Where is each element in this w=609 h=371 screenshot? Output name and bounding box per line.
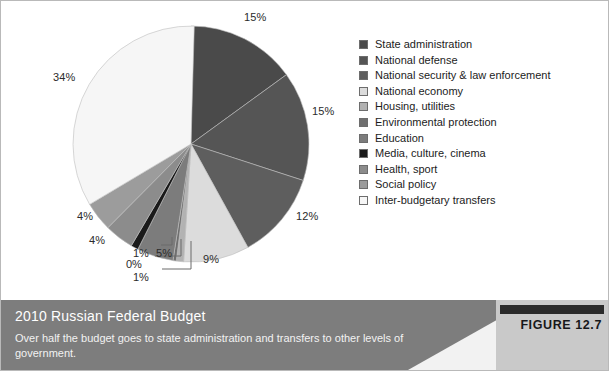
legend-item[interactable]: Education bbox=[359, 131, 599, 146]
legend-label: National defense bbox=[375, 55, 458, 66]
legend-swatch bbox=[359, 56, 368, 65]
pie-value-label: 9% bbox=[203, 253, 219, 265]
legend-item[interactable]: Housing, utilities bbox=[359, 99, 599, 114]
legend-label: Inter-budgetary transfers bbox=[375, 195, 495, 206]
pie-value-label: 15% bbox=[244, 11, 266, 23]
legend-swatch bbox=[359, 87, 368, 96]
legend-item[interactable]: National defense bbox=[359, 53, 599, 68]
legend-item[interactable]: Media, culture, cinema bbox=[359, 146, 599, 161]
legend-label: Social policy bbox=[375, 179, 436, 190]
legend-swatch bbox=[359, 165, 368, 174]
figure-tab-bar bbox=[500, 305, 604, 314]
legend-swatch bbox=[359, 40, 368, 49]
pie-value-label: 5% bbox=[156, 247, 172, 259]
legend-item[interactable]: National economy bbox=[359, 84, 599, 99]
legend-label: State administration bbox=[375, 39, 472, 50]
figure-number-label: FIGURE 12.7 bbox=[500, 318, 602, 332]
legend-item[interactable]: State administration bbox=[359, 37, 599, 52]
pie-value-label: 12% bbox=[296, 210, 318, 222]
legend-item[interactable]: Environmental protection bbox=[359, 115, 599, 130]
caption-bar: FIGURE 12.7 2010 Russian Federal Budget … bbox=[1, 300, 608, 370]
legend-item[interactable]: Inter-budgetary transfers bbox=[359, 193, 599, 208]
figure-label-panel: FIGURE 12.7 bbox=[496, 300, 608, 370]
caption-title: 2010 Russian Federal Budget bbox=[15, 308, 206, 324]
legend-swatch bbox=[359, 134, 368, 143]
figure-container: 15%15%12%9%1%0%5%1%4%4%34% State adminis… bbox=[0, 0, 609, 371]
legend-item[interactable]: Social policy bbox=[359, 177, 599, 192]
legend-swatch bbox=[359, 149, 368, 158]
legend-label: Health, sport bbox=[375, 164, 437, 175]
legend-swatch bbox=[359, 118, 368, 127]
pie-value-label: 4% bbox=[89, 234, 105, 246]
legend-item[interactable]: Health, sport bbox=[359, 162, 599, 177]
legend-swatch bbox=[359, 71, 368, 80]
pie-value-label: 4% bbox=[77, 210, 93, 222]
legend-label: Education bbox=[375, 133, 424, 144]
pie-value-label: 1% bbox=[129, 271, 149, 283]
pie-value-label: 15% bbox=[312, 105, 334, 117]
legend-label: National security & law enforcement bbox=[375, 70, 550, 81]
legend-label: Environmental protection bbox=[375, 117, 497, 128]
legend-swatch bbox=[359, 102, 368, 111]
pie-chart: 15%15%12%9%1%0%5%1%4%4%34% bbox=[1, 1, 361, 297]
legend-label: Media, culture, cinema bbox=[375, 148, 486, 159]
pie-value-label: 0% bbox=[122, 258, 142, 270]
legend-item[interactable]: National security & law enforcement bbox=[359, 68, 599, 83]
legend: State administrationNational defenseNati… bbox=[359, 37, 599, 209]
legend-swatch bbox=[359, 180, 368, 189]
legend-label: National economy bbox=[375, 86, 463, 97]
legend-swatch bbox=[359, 196, 368, 205]
chart-area: 15%15%12%9%1%0%5%1%4%4%34% State adminis… bbox=[1, 1, 609, 297]
legend-label: Housing, utilities bbox=[375, 101, 455, 112]
caption-subtitle: Over half the budget goes to state admin… bbox=[15, 331, 445, 361]
pie-chart-svg bbox=[1, 1, 361, 297]
pie-value-label: 34% bbox=[53, 71, 75, 83]
